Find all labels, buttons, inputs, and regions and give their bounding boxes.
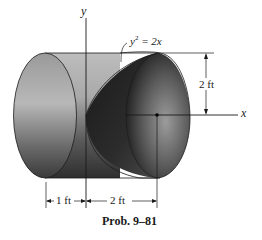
left-length-label: 1 ft	[56, 194, 71, 206]
y-axis-label: y	[81, 4, 86, 19]
cylinder-end-cap	[14, 53, 77, 178]
curve-rhs: = 2x	[138, 35, 161, 47]
curve-equation: y2 = 2x	[130, 34, 162, 47]
figure-caption: Prob. 9–81	[102, 214, 157, 229]
radius-label: 2 ft	[198, 78, 215, 90]
x-axis-label: x	[241, 106, 246, 121]
right-length-label: 2 ft	[110, 194, 125, 206]
